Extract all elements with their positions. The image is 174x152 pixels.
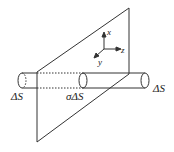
arrowhead-x: [102, 32, 106, 37]
label-right-area: ΔS: [153, 83, 165, 94]
right-cap: [141, 73, 149, 88]
label-left-area: ΔS: [11, 91, 23, 102]
plane: [37, 8, 129, 142]
label-axis-z: z: [121, 46, 125, 55]
left-cap: [18, 73, 22, 88]
label-middle-area: σΔS: [66, 91, 83, 102]
left-cap-hidden: [22, 73, 26, 88]
diagram-canvas: [0, 0, 174, 152]
label-axis-x: x: [107, 28, 111, 37]
middle-cap: [79, 73, 87, 88]
label-axis-y: y: [98, 58, 102, 67]
